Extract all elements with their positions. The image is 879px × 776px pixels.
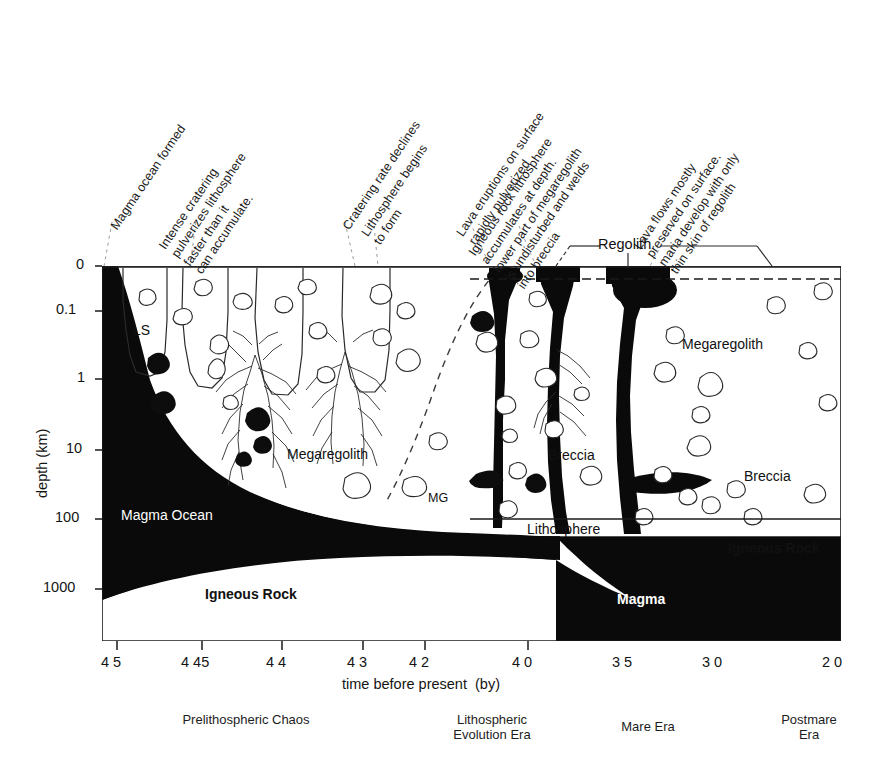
x-axis-title: time before present (by) (342, 676, 500, 693)
label-breccia-left: Breccia (548, 447, 595, 464)
x-tick-4-3: 4 3 (347, 654, 367, 671)
x-tick-3-5: 3 5 (612, 654, 632, 671)
label-magma-ocean: Magma Ocean (121, 507, 213, 524)
diagram-graphic (0, 0, 879, 776)
label-lithosphere: Lithosphere (527, 521, 600, 538)
regolith-bracket-label: Regolith (598, 236, 651, 253)
label-ls: LS (133, 322, 150, 339)
x-tick-3-0: 3 0 (702, 654, 722, 671)
y-tick-0-1: 0.1 (56, 301, 76, 318)
figure-canvas: Magma ocean formed Intense cratering pul… (0, 0, 879, 776)
x-tick-4-4: 4 4 (266, 654, 286, 671)
label-megaregolith-left: Megaregolith (287, 446, 368, 463)
x-tick-4-5: 4 5 (101, 654, 121, 671)
x-tick-2-0: 2 0 (822, 654, 842, 671)
era-postmare: Postmare Era (768, 712, 850, 743)
x-tick-4-45: 4 45 (181, 654, 209, 671)
era-lithospheric-evolution: Lithospheric Evolution Era (432, 712, 552, 743)
y-tick-10: 10 (66, 440, 82, 457)
label-igneous-rock-right: Igneous Rock (728, 540, 820, 557)
y-tick-1000: 1000 (43, 579, 75, 596)
label-igneous-rock-left: Igneous Rock (205, 586, 297, 603)
era-mare: Mare Era (608, 719, 688, 734)
y-tick-1: 1 (77, 369, 85, 386)
era-prelithospheric-chaos: Prelithospheric Chaos (161, 712, 331, 727)
label-breccia-right: Breccia (744, 468, 791, 485)
y-axis-title: depth (km) (34, 429, 51, 498)
y-tick-100: 100 (55, 509, 79, 526)
label-megaregolith-right: Megaregolith (682, 336, 763, 353)
label-magma: Magma (617, 591, 665, 608)
y-tick-0: 0 (76, 256, 84, 273)
x-tick-4-2: 4 2 (409, 654, 429, 671)
x-tick-4-0: 4 0 (512, 654, 532, 671)
label-mg: MG (428, 491, 448, 506)
